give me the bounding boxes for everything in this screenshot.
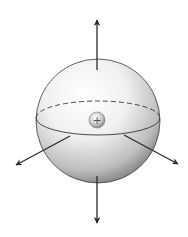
- positive-charge: +: [89, 112, 105, 128]
- plus-sign-icon: +: [92, 114, 101, 127]
- charged-sphere-diagram: +: [0, 0, 188, 237]
